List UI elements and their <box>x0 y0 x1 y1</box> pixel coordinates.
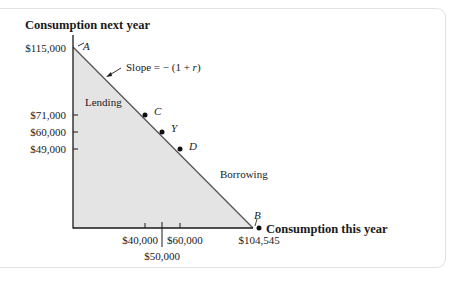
x-axis-title: Consumption this year <box>266 222 388 236</box>
y-label-49000: $49,000 <box>30 143 66 155</box>
budget-constraint-chart: Consumption next year Consumption this y… <box>0 0 450 285</box>
slope-annotation: Slope = − (1 + r) <box>126 61 201 74</box>
y-label-71000: $71,000 <box>30 109 66 121</box>
slope-prefix: Slope = − (1 + <box>126 61 193 74</box>
point-c-label: C <box>154 105 162 117</box>
lending-label: Lending <box>85 96 122 108</box>
slope-suffix: ) <box>197 61 201 74</box>
point-y-label: Y <box>171 122 179 134</box>
point-d-label: D <box>188 140 197 152</box>
point-c-marker <box>143 113 148 118</box>
point-d-marker <box>178 147 183 152</box>
y-label-60000: $60,000 <box>30 126 66 138</box>
x-label-40000: $40,000 <box>122 234 158 246</box>
point-a-label: A <box>82 40 90 52</box>
x-label-50000: $50,000 <box>144 250 180 262</box>
x-label-104545: $104,545 <box>238 234 280 246</box>
y-axis-title: Consumption next year <box>25 18 150 32</box>
x-label-60000: $60,000 <box>167 234 203 246</box>
slope-arrowhead <box>106 72 112 77</box>
point-b-label: B <box>254 209 261 221</box>
point-y-marker <box>160 130 165 135</box>
borrowing-label: Borrowing <box>220 168 268 180</box>
y-label-115000: $115,000 <box>25 42 66 54</box>
point-b-marker <box>257 226 262 231</box>
